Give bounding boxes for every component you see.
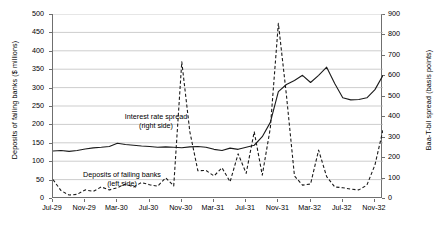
annotation-deposits-failing-banks: Deposits of failing banks (left side) <box>62 170 182 188</box>
y-right-tick-100: 100 <box>388 173 414 182</box>
y-left-tick-200: 200 <box>18 119 44 128</box>
y-right-tick-300: 300 <box>388 132 414 141</box>
y-right-tick-400: 400 <box>388 111 414 120</box>
x-tickmark-jul-29 <box>52 199 53 202</box>
y-left-tick-350: 350 <box>18 64 44 73</box>
y-right-tick-800: 800 <box>388 29 414 38</box>
y-right-tick-900: 900 <box>388 9 414 18</box>
x-tickmark-nov-32 <box>374 199 375 202</box>
y-left-tick-450: 450 <box>18 27 44 36</box>
y-left-tick-300: 300 <box>18 83 44 92</box>
annotation-spread-line1: Interest rate spread <box>96 112 216 121</box>
x-tickmark-mar-31 <box>213 199 214 202</box>
y-right-tick-700: 700 <box>388 50 414 59</box>
annotation-interest-rate-spread: Interest rate spread (right side) <box>96 112 216 130</box>
x-tickmark-mar-32 <box>310 199 311 202</box>
annotation-deposits-line2: (left side) <box>62 179 182 188</box>
y-right-tick-600: 600 <box>388 70 414 79</box>
x-tickmark-nov-29 <box>84 199 85 202</box>
y-right-tickmark-0 <box>382 198 385 199</box>
x-tickmark-mar-30 <box>116 199 117 202</box>
y-left-tick-150: 150 <box>18 138 44 147</box>
y-left-tick-400: 400 <box>18 46 44 55</box>
annotation-deposits-line1: Deposits of failing banks <box>62 170 182 179</box>
x-tickmark-nov-31 <box>277 199 278 202</box>
x-tickmark-nov-30 <box>181 199 182 202</box>
y-left-tick-0: 0 <box>18 193 44 202</box>
y-axis-right-title: Baa-T-bil spread (basis points) <box>424 2 435 198</box>
y-right-tick-200: 200 <box>388 152 414 161</box>
y-right-tick-500: 500 <box>388 91 414 100</box>
y-left-tick-500: 500 <box>18 9 44 18</box>
annotation-spread-line2: (right side) <box>96 121 216 130</box>
y-left-tick-250: 250 <box>18 101 44 110</box>
y-left-tick-100: 100 <box>18 156 44 165</box>
y-left-tick-50: 50 <box>18 175 44 184</box>
x-tick-nov-32: Nov-32 <box>353 203 395 212</box>
series-interest-rate-spread <box>53 67 383 151</box>
gridlines <box>53 14 383 180</box>
x-tickmark-jul-31 <box>245 199 246 202</box>
x-tickmark-jul-32 <box>342 199 343 202</box>
x-tickmark-jul-30 <box>149 199 150 202</box>
y-right-tick-0: 0 <box>388 193 414 202</box>
